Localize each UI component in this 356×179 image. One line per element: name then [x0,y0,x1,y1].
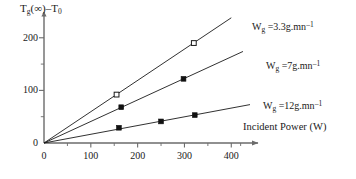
x-tick-label: 200 [123,151,153,161]
data-series [44,18,250,143]
y-tick-label: 0 [4,138,38,148]
data-point-marker [181,76,186,81]
data-point-marker [159,119,164,124]
series-line-3 [44,105,250,143]
data-point-marker [119,105,124,110]
series-label-2: Wg =7g.mn–1 [266,60,320,73]
series-label-3: Wg =12g.mn–1 [263,100,322,113]
data-point-marker [192,113,197,118]
y-tick-label: 200 [4,33,38,43]
y-tick-label: 100 [4,85,38,95]
y-axis-title: Tg(∞)–T0 [20,3,62,15]
data-point-marker [117,125,122,130]
series-line-1 [44,18,231,143]
data-point-marker [191,41,196,46]
data-point-marker [114,92,119,97]
axes [39,12,258,148]
x-tick-label: 100 [76,151,106,161]
chart-figure: Tg(∞)–T0 Incident Power (W) Wg =3.3g.mn–… [0,0,356,179]
x-tick-label: 0 [29,151,59,161]
series-line-2 [44,51,243,143]
x-tick-label: 400 [216,151,246,161]
x-tick-label: 300 [169,151,199,161]
series-label-1: Wg =3.3g.mn–1 [252,21,314,34]
x-axis-title: Incident Power (W) [243,122,326,133]
